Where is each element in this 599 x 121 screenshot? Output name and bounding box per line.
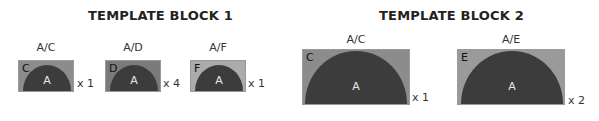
center-letter: A: [215, 74, 223, 87]
template-tile: C A: [302, 49, 410, 105]
tile-label: A/D: [105, 41, 161, 54]
multiplier: x 2: [568, 94, 585, 107]
corner-letter: F: [194, 62, 200, 75]
center-letter: A: [43, 74, 51, 87]
template-tile: C A: [18, 60, 74, 92]
multiplier: x 1: [248, 77, 265, 90]
template-tile: D A: [105, 60, 161, 92]
corner-letter: D: [109, 62, 117, 75]
block-title: TEMPLATE BLOCK 1: [88, 8, 233, 23]
center-letter: A: [352, 80, 360, 93]
corner-letter: C: [306, 51, 314, 64]
tile-label: A/C: [302, 33, 410, 46]
corner-letter: C: [22, 62, 30, 75]
semicircle-shape: [461, 51, 563, 104]
center-letter: A: [130, 74, 138, 87]
template-tile: F A: [190, 60, 246, 92]
tile-label: A/F: [190, 41, 246, 54]
multiplier: x 1: [77, 77, 94, 90]
tile-label: A/C: [18, 41, 74, 54]
block-title: TEMPLATE BLOCK 2: [379, 8, 524, 23]
multiplier: x 1: [412, 91, 429, 104]
multiplier: x 4: [163, 77, 180, 90]
semicircle-shape: [305, 51, 407, 104]
center-letter: A: [508, 80, 516, 93]
corner-letter: E: [461, 51, 468, 64]
template-tile: E A: [457, 49, 565, 105]
tile-label: A/E: [457, 33, 565, 46]
